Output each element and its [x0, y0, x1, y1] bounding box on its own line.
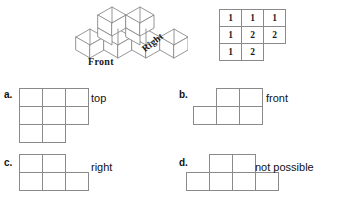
table-row: 1 2 2: [220, 27, 286, 44]
option-b-label: front: [266, 92, 288, 104]
option-a-letter: a.: [4, 89, 12, 100]
option-b-shape: [193, 88, 265, 128]
grid-cell: 2: [242, 44, 264, 61]
option-a[interactable]: a. top: [0, 86, 175, 150]
option-d[interactable]: d. not possible: [175, 152, 351, 212]
option-d-shape: [186, 154, 281, 194]
option-c[interactable]: c. right: [0, 152, 175, 212]
option-b[interactable]: b. front: [175, 86, 351, 150]
option-a-shape: [19, 88, 91, 144]
option-d-label: not possible: [255, 161, 314, 173]
front-direction-label: Front: [88, 56, 114, 67]
grid-cell: 2: [264, 27, 286, 44]
isometric-cube-svg: [68, 0, 188, 62]
grid-cell: 1: [264, 10, 286, 27]
worksheet-canvas: Front Right 1 1 1 1 2 2 1 2 a.: [0, 0, 351, 218]
option-a-label: top: [91, 92, 106, 104]
grid-cell-empty: [264, 44, 286, 61]
option-c-shape: [19, 154, 91, 194]
option-d-grid-svg: [186, 154, 281, 194]
option-a-grid-svg: [19, 88, 91, 144]
height-map-table: 1 1 1 1 2 2 1 2: [219, 9, 286, 61]
table-row: 1 1 1: [220, 10, 286, 27]
grid-cell: 2: [242, 27, 264, 44]
grid-cell: 1: [242, 10, 264, 27]
option-b-grid-svg: [193, 88, 265, 128]
option-c-grid-svg: [19, 154, 91, 194]
option-c-label: right: [91, 161, 112, 173]
option-c-letter: c.: [4, 157, 12, 168]
grid-cell: 1: [220, 44, 242, 61]
isometric-cube-figure: [68, 0, 188, 62]
option-b-letter: b.: [179, 89, 188, 100]
grid-cell: 1: [220, 10, 242, 27]
table-row: 1 2: [220, 44, 286, 61]
grid-cell: 1: [220, 27, 242, 44]
